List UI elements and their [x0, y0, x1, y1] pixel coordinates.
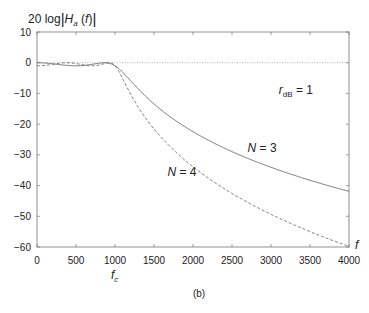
- x-tick-label: 4000: [338, 255, 361, 266]
- y-tick-label: −40: [14, 180, 31, 191]
- n3-label: N = 3: [248, 141, 277, 155]
- y-tick-label: −10: [14, 88, 31, 99]
- figure-caption: (b): [193, 288, 205, 299]
- plot-frame: [37, 32, 349, 247]
- y-axis-label: 20 log|Ha (f)|: [28, 10, 96, 28]
- x-tick-label: 500: [68, 255, 85, 266]
- x-axis-label: f: [355, 238, 360, 252]
- n4-label: N = 4: [167, 165, 196, 179]
- x-tick-label: 1500: [143, 255, 166, 266]
- y-tick-label: −20: [14, 119, 31, 130]
- y-tick-label: −30: [14, 149, 31, 160]
- x-tick-label: 1000: [104, 255, 127, 266]
- chart: 100−10−20−30−40−50−600500100015002000250…: [0, 0, 369, 313]
- x-tick-label: 0: [34, 255, 40, 266]
- y-tick-label: 0: [25, 57, 31, 68]
- y-tick-label: −50: [14, 211, 31, 222]
- cutoff-frequency-label: fc: [111, 268, 118, 284]
- x-tick-label: 3000: [260, 255, 283, 266]
- x-tick-label: 2000: [182, 255, 205, 266]
- y-tick-label: 10: [20, 27, 32, 38]
- ripple-annotation: rdB = 1: [279, 83, 313, 99]
- x-tick-label: 3500: [299, 255, 322, 266]
- y-tick-label: −60: [14, 242, 31, 253]
- x-tick-label: 2500: [221, 255, 244, 266]
